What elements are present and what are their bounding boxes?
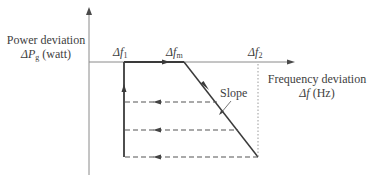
dashed-arrow-3-icon bbox=[153, 155, 161, 160]
marker-df1-subscript: 1 bbox=[123, 51, 127, 60]
frequency-power-diagram: Power deviation ΔPg (watt) Δf1 Δfm Δf2 S… bbox=[0, 0, 369, 190]
marker-df2-subscript: 2 bbox=[258, 51, 262, 60]
marker-dfm-subscript: m bbox=[176, 51, 182, 60]
y-axis-label-line1: Power deviation bbox=[4, 33, 88, 47]
x-axis-label: Frequency deviation Δf (Hz) bbox=[262, 72, 369, 100]
x-axis-label-line2: Δf (Hz) bbox=[262, 86, 369, 100]
y-axis-unit: (watt) bbox=[39, 47, 71, 61]
y-axis-symbol: ΔP bbox=[21, 47, 35, 61]
slope-leader bbox=[219, 101, 231, 115]
x-axis-label-line1: Frequency deviation bbox=[262, 72, 369, 86]
dashed-arrow-1-icon bbox=[153, 100, 161, 105]
marker-df2: Δf2 bbox=[248, 45, 262, 63]
marker-df2-symbol: Δf bbox=[248, 45, 258, 59]
horizontal-axis-arrow-icon bbox=[287, 60, 295, 65]
df1-up-arrow-icon bbox=[122, 84, 127, 92]
x-axis-unit: (Hz) bbox=[310, 86, 335, 100]
slope-line bbox=[184, 62, 258, 157]
marker-dfm-symbol: Δf bbox=[166, 45, 176, 59]
y-axis-label: Power deviation ΔPg (watt) bbox=[4, 33, 88, 65]
y-axis-label-line2: ΔPg (watt) bbox=[4, 47, 88, 65]
vertical-axis-arrow-icon bbox=[86, 7, 92, 15]
slope-label: Slope bbox=[220, 86, 247, 100]
marker-dfm: Δfm bbox=[166, 45, 183, 63]
df1-vertical-line bbox=[122, 62, 127, 157]
marker-df1-symbol: Δf bbox=[113, 45, 123, 59]
marker-df1: Δf1 bbox=[113, 45, 127, 63]
x-axis-symbol: Δf bbox=[299, 86, 309, 100]
dashed-arrow-2-icon bbox=[153, 128, 161, 133]
dashed-return-lines bbox=[125, 100, 258, 160]
